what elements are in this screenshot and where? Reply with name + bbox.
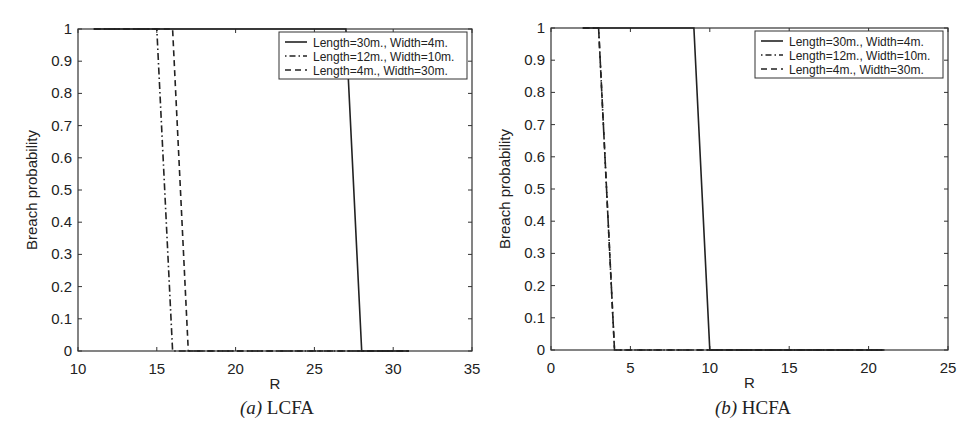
x-tick-label: 10 [701, 359, 718, 376]
chart-panel-hcfa: 051015202500.10.20.30.40.50.60.70.80.91R… [496, 19, 956, 391]
caption-label: (a) [240, 397, 262, 418]
legend-entry-label: Length=30m., Width=4m. [789, 35, 924, 49]
x-tick-label: 20 [860, 359, 877, 376]
x-tick-label: 10 [70, 360, 87, 377]
x-tick-label: 25 [306, 360, 323, 377]
legend-entry-label: Length=4m., Width=30m. [789, 63, 924, 77]
legend-entry-label: Length=30m., Width=4m. [313, 36, 448, 50]
x-tick-label: 35 [464, 360, 481, 377]
y-tick-label: 0.1 [51, 310, 72, 327]
caption-lcfa: (a) LCFA [240, 397, 314, 419]
y-tick-label: 0 [537, 341, 545, 358]
x-axis-label: R [270, 375, 281, 392]
legend-entry-label: Length=12m., Width=10m. [313, 50, 454, 64]
caption-text: LCFA [267, 397, 314, 418]
legend-entry-label: Length=4m., Width=30m. [313, 64, 448, 78]
legend: Length=30m., Width=4m.Length=12m., Width… [755, 31, 943, 78]
y-tick-label: 0.3 [51, 245, 72, 262]
y-tick-label: 0.9 [51, 52, 72, 69]
y-tick-label: 0.2 [524, 277, 545, 294]
x-tick-label: 25 [940, 359, 957, 376]
caption-hcfa: (b) HCFA [715, 397, 791, 419]
x-tick-label: 20 [227, 360, 244, 377]
y-tick-label: 0 [64, 342, 72, 359]
x-tick-label: 0 [547, 359, 555, 376]
y-tick-label: 0.4 [524, 212, 545, 229]
caption-label: (b) [715, 397, 737, 418]
caption-text: HCFA [742, 397, 791, 418]
y-tick-label: 0.7 [51, 117, 72, 134]
y-tick-label: 1 [537, 19, 545, 36]
y-tick-label: 0.5 [51, 181, 72, 198]
y-tick-label: 0.2 [51, 278, 72, 295]
x-tick-label: 15 [781, 359, 798, 376]
y-axis-label: Breach probability [496, 128, 513, 249]
legend: Length=30m., Width=4m.Length=12m., Width… [279, 32, 467, 79]
x-tick-label: 30 [385, 360, 402, 377]
y-tick-label: 0.1 [524, 309, 545, 326]
x-tick-label: 5 [626, 359, 634, 376]
y-tick-label: 0.7 [524, 116, 545, 133]
y-tick-label: 0.3 [524, 244, 545, 261]
y-tick-label: 0.4 [51, 213, 72, 230]
x-axis-label: R [744, 374, 755, 391]
x-tick-label: 15 [148, 360, 165, 377]
y-tick-label: 0.8 [51, 84, 72, 101]
y-tick-label: 1 [64, 20, 72, 37]
y-tick-label: 0.8 [524, 83, 545, 100]
y-axis-label: Breach probability [23, 129, 40, 250]
y-tick-label: 0.6 [51, 149, 72, 166]
y-tick-label: 0.9 [524, 51, 545, 68]
chart-panel-lcfa: 10152025303500.10.20.30.40.50.60.70.80.9… [23, 20, 480, 392]
y-tick-label: 0.6 [524, 148, 545, 165]
figure: 10152025303500.10.20.30.40.50.60.70.80.9… [0, 0, 980, 447]
legend-entry-label: Length=12m., Width=10m. [789, 49, 930, 63]
y-tick-label: 0.5 [524, 180, 545, 197]
